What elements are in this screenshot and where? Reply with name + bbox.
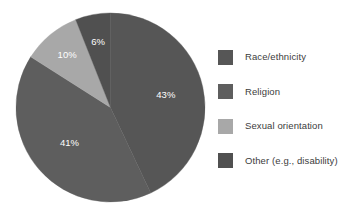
legend-item-label: Sexual orientation <box>245 121 323 131</box>
legend-item-label: Race/ethnicity <box>245 52 306 62</box>
legend-color-swatch-icon <box>218 84 233 99</box>
legend-item[interactable]: Sexual orientation <box>216 109 349 144</box>
pie-slice-group <box>16 13 205 202</box>
legend-item-label: Other (e.g., disability) <box>245 156 338 166</box>
legend-color-swatch-icon <box>218 119 233 134</box>
chart-legend: Race/ethnicityReligionSexual orientation… <box>216 40 349 180</box>
legend-item-label: Religion <box>245 87 280 97</box>
pie-slice-label: 6% <box>91 36 105 47</box>
pie-chart: 43%41%10%6% Race/ethnicityReligionSexual… <box>0 0 349 217</box>
pie-slice-label: 10% <box>58 49 78 60</box>
pie-svg: 43%41%10%6% <box>0 0 215 217</box>
pie-slice-label: 43% <box>156 89 176 100</box>
pie-plot-area: 43%41%10%6% <box>0 0 215 217</box>
legend-color-swatch-icon <box>218 50 233 65</box>
legend-color-swatch-icon <box>218 153 233 168</box>
legend-item[interactable]: Other (e.g., disability) <box>216 144 349 179</box>
legend-item[interactable]: Religion <box>216 75 349 110</box>
pie-slice-label: 41% <box>60 137 80 148</box>
legend-item[interactable]: Race/ethnicity <box>216 40 349 75</box>
